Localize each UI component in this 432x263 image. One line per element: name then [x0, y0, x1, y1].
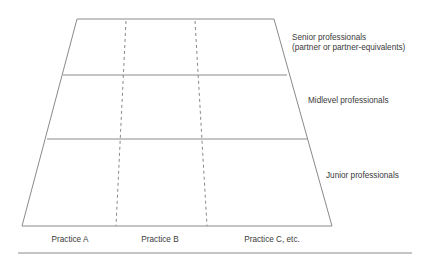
row-label-senior-line1: Senior professionals: [292, 33, 405, 43]
column-divider-b-c: [195, 21, 207, 226]
column-label-practice-c: Practice C, etc.: [244, 235, 300, 245]
row-label-junior: Junior professionals: [326, 171, 399, 181]
row-label-senior-line2: (partner or partner-equivalents): [292, 43, 405, 53]
trapezoid-outline: [22, 19, 332, 226]
row-label-midlevel: Midlevel professionals: [308, 96, 389, 106]
row-label-senior: Senior professionals (partner or partner…: [292, 33, 405, 53]
column-label-practice-a: Practice A: [52, 235, 89, 245]
column-label-practice-b: Practice B: [141, 235, 178, 245]
column-divider-a-b: [116, 21, 126, 226]
